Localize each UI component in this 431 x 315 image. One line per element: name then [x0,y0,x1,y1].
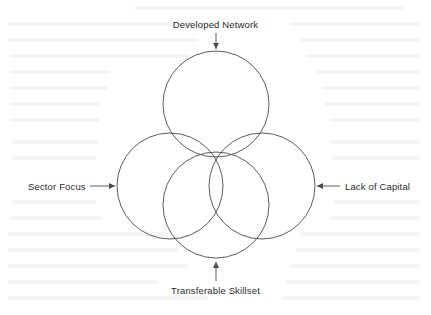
label-lack-of-capital: Lack of Capital [345,181,410,192]
lack-of-capital-circle[interactable] [209,133,315,239]
diagram-canvas: Developed Network Transferable Skillset … [0,0,431,315]
label-developed-network: Developed Network [0,19,431,30]
label-transferable-skillset: Transferable Skillset [0,285,431,296]
label-sector-focus: Sector Focus [28,181,86,192]
sector-focus-circle[interactable] [117,133,223,239]
developed-network-circle[interactable] [163,51,269,157]
venn-diagram-svg [0,0,431,315]
transferable-skillset-circle[interactable] [163,152,269,258]
